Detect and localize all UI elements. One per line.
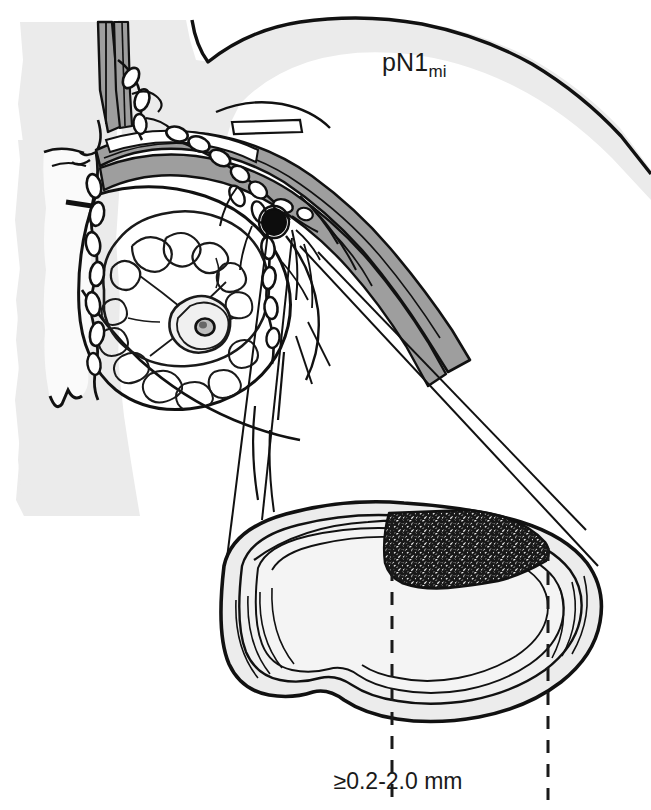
figure-root: pN1mi ≥0.2-2.0 mm [0, 0, 651, 810]
size-label-text: ≥0.2-2.0 mm [330, 768, 467, 795]
stage-label-main: pN1 [382, 48, 428, 76]
nipple-areola [169, 296, 230, 353]
stage-label: pN1mi [382, 48, 447, 82]
stage-label-subscript: mi [428, 62, 446, 81]
size-label: ≥0.2-2.0 mm [330, 768, 467, 795]
anatomy-illustration [0, 0, 651, 810]
sentinel-node-filled [259, 206, 289, 238]
sternum-region [43, 149, 91, 408]
